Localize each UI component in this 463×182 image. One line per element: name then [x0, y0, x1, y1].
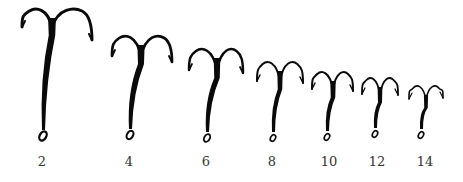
hook-size-14 [409, 86, 443, 139]
hook-size-4 [112, 36, 172, 140]
size-label-8: 8 [268, 154, 276, 170]
hook-size-diagram: 2 4 6 8 10 12 14 [0, 0, 463, 182]
hook-size-10 [312, 72, 353, 141]
size-label-6: 6 [202, 154, 210, 170]
size-label-4: 4 [125, 154, 133, 170]
hook-size-2 [22, 9, 92, 142]
hook-size-8 [257, 62, 303, 142]
size-label-2: 2 [38, 154, 46, 170]
hook-size-12 [362, 78, 398, 138]
hook-size-6 [189, 49, 243, 143]
size-label-12: 12 [369, 154, 386, 170]
hooks-illustration [0, 0, 463, 182]
size-label-14: 14 [417, 154, 434, 170]
size-label-10: 10 [321, 154, 338, 170]
